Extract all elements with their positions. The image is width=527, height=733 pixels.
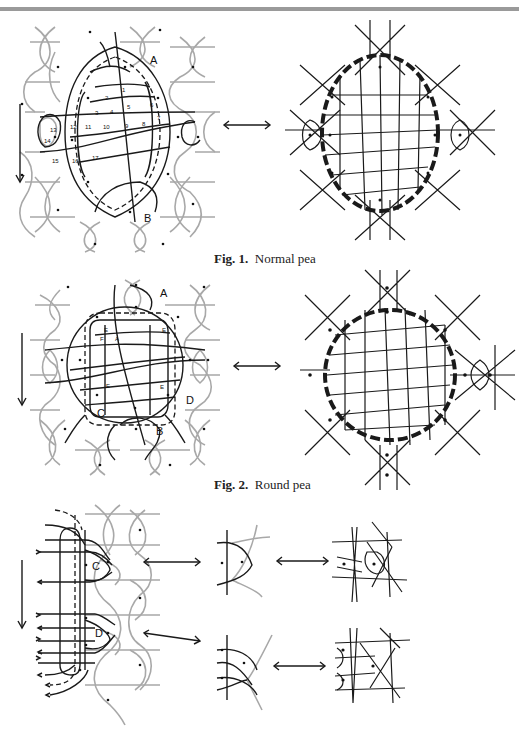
- fig1-lace-rendering: [270, 15, 500, 240]
- svg-text:11: 11: [85, 124, 92, 130]
- svg-text:6: 6: [150, 102, 154, 108]
- svg-text:8: 8: [142, 121, 146, 127]
- fig1-caption-text: Normal pea: [255, 251, 316, 266]
- fig3-edge-pricking-diagram: C D: [0, 500, 170, 725]
- fig3-lace-detail-d: [335, 628, 415, 713]
- fig2-caption-number: Fig. 2.: [214, 477, 248, 492]
- fig1-pin-numbers: 1 2 3 4 5 6 7 8 9 10 11 12 13 14 15 16 1…: [44, 87, 161, 164]
- fig3-pricking-detail-c: [212, 525, 272, 595]
- fig1-double-arrow-icon: [222, 119, 272, 131]
- fig2-direction-down-arrow-icon: [18, 333, 26, 405]
- fig2-inner-label: E: [104, 327, 108, 333]
- fig1-caption-number: Fig. 1.: [214, 251, 248, 266]
- svg-text:13: 13: [50, 127, 57, 133]
- fig1-pricking-diagram: A B 1 2 3 4 5 6 7 8 9 10 11 12 13 14 15 …: [0, 12, 230, 252]
- svg-text:14: 14: [44, 138, 51, 144]
- svg-text:5: 5: [127, 104, 131, 110]
- fig3-pricking-detail-d: [212, 635, 277, 705]
- svg-text:10: 10: [103, 124, 110, 130]
- figure-1: A B 1 2 3 4 5 6 7 8 9 10 11 12 13 14 15 …: [0, 0, 527, 265]
- fig2-double-arrow-icon: [232, 360, 282, 372]
- fig3-label-d: D: [95, 627, 103, 639]
- fig3-double-arrow-icon-3: [275, 555, 330, 567]
- fig1-label-b: B: [144, 212, 151, 224]
- svg-text:16: 16: [72, 158, 79, 164]
- svg-text:15: 15: [52, 158, 59, 164]
- fig2-pricking-diagram: A B C D E E E E F A: [0, 265, 230, 475]
- svg-text:4: 4: [110, 109, 114, 115]
- svg-text:17: 17: [92, 155, 99, 161]
- fig3-double-arrow-icon-1: [142, 556, 202, 568]
- fig1-direction-down-arrow-icon: [16, 104, 24, 182]
- fig2-inner-label: F: [100, 336, 104, 342]
- fig2-inner-label: E: [162, 327, 166, 333]
- fig3-label-c: C: [92, 560, 100, 572]
- fig2-caption: Fig. 2. Round pea: [214, 477, 311, 493]
- fig2-label-b: B: [156, 425, 163, 437]
- svg-text:3: 3: [95, 110, 99, 116]
- fig2-lace-rendering: [285, 270, 515, 490]
- svg-text:2: 2: [105, 95, 109, 101]
- fig3-double-arrow-icon-2: [142, 630, 202, 646]
- fig1-label-a: A: [150, 54, 158, 66]
- svg-text:9: 9: [125, 123, 129, 129]
- svg-text:1: 1: [122, 87, 126, 93]
- fig2-inner-label: E: [160, 384, 164, 390]
- fig3-lace-detail-c: [332, 522, 407, 607]
- fig2-inner-label: E: [106, 383, 110, 389]
- fig3-double-arrow-icon-4: [272, 660, 327, 672]
- fig2-label-a: A: [160, 287, 168, 299]
- fig2-label-d: D: [186, 394, 194, 406]
- figure-2: A B C D E E E E F A: [0, 265, 527, 500]
- fig2-inner-label: A: [115, 336, 119, 342]
- fig3-direction-down-arrow-icon: [18, 560, 26, 628]
- figure-3: C D: [0, 500, 527, 733]
- fig2-caption-text: Round pea: [255, 477, 311, 492]
- svg-text:12: 12: [70, 124, 77, 130]
- fig2-label-c: C: [97, 407, 105, 419]
- svg-text:7: 7: [157, 115, 161, 121]
